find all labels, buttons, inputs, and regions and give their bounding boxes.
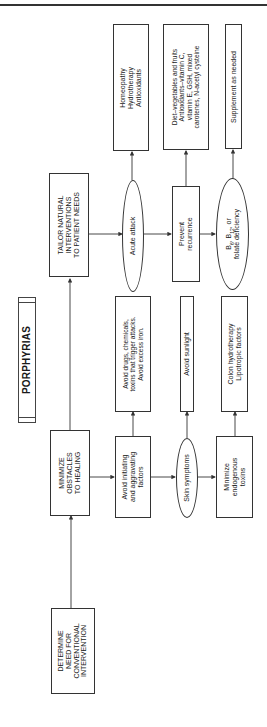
node-minimize-endogenous-toxins: Minimize endogenous toxins bbox=[216, 436, 253, 518]
node-label: Supplement as needed bbox=[230, 51, 238, 123]
node-label: Minimize endogenous toxins bbox=[223, 458, 246, 497]
node-label: Avoid sunlight bbox=[183, 332, 191, 375]
node-colon-hydrotherapy: Colon hydrotherapy Lipotropic factors bbox=[221, 296, 248, 412]
node-diet-antioxidants: Diet–vegetables and fruits Antioxidants–… bbox=[163, 24, 209, 150]
node-determine-need: DETERMINE NEED FOR CONVENTIONAL INTERVEN… bbox=[51, 608, 95, 694]
node-b-vitamin-deficiency: B6, B12, or folate deficiency bbox=[216, 178, 249, 290]
node-label: Avoid initiating and aggravating factors bbox=[121, 452, 144, 502]
node-tailor-interventions: TAILOR NATURAL INTERVENTIONS TO PATIENT … bbox=[49, 173, 89, 277]
node-label: DETERMINE NEED FOR CONVENTIONAL INTERVEN… bbox=[57, 623, 88, 678]
node-label: Prevent recurrence bbox=[178, 217, 194, 250]
node-prevent-recurrence: Prevent recurrence bbox=[172, 186, 200, 282]
node-skin-symptoms: Skin symptoms bbox=[176, 438, 198, 518]
diagram-title-box: PORPHYRIAS bbox=[18, 297, 36, 423]
node-acute-attack: Acute attack bbox=[122, 180, 144, 292]
title-band-top bbox=[19, 298, 35, 303]
node-label: MINIMIZE OBSTACLES TO HEALING bbox=[58, 452, 81, 494]
diagram-title: PORPHYRIAS bbox=[21, 326, 32, 394]
node-label: Diet–vegetables and fruits Antioxidants–… bbox=[171, 46, 201, 129]
node-minimize-obstacles: MINIMIZE OBSTACLES TO HEALING bbox=[50, 430, 90, 516]
node-label: Skin symptoms bbox=[183, 454, 191, 501]
node-label: Homeopathy Hydrotherapy Antioxidants bbox=[119, 66, 142, 108]
node-label: TAILOR NATURAL INTERVENTIONS TO PATIENT … bbox=[57, 192, 80, 258]
node-supplement-as-needed: Supplement as needed bbox=[225, 24, 242, 149]
node-homeopathy: Homeopathy Hydrotherapy Antioxidants bbox=[113, 24, 149, 151]
node-label: B6, B12, or folate deficiency bbox=[225, 209, 241, 259]
node-label: Colon hydrotherapy Lipotropic factors bbox=[227, 323, 243, 384]
node-avoid-initiating-factors: Avoid initiating and aggravating factors bbox=[115, 436, 151, 518]
node-label: Avoid drugs, chemicals, toxins that trig… bbox=[122, 316, 144, 391]
title-band-bottom bbox=[19, 417, 35, 422]
node-label: Acute attack bbox=[129, 217, 137, 256]
node-avoid-sunlight: Avoid sunlight bbox=[180, 296, 194, 412]
node-avoid-drugs: Avoid drugs, chemicals, toxins that trig… bbox=[115, 296, 151, 412]
